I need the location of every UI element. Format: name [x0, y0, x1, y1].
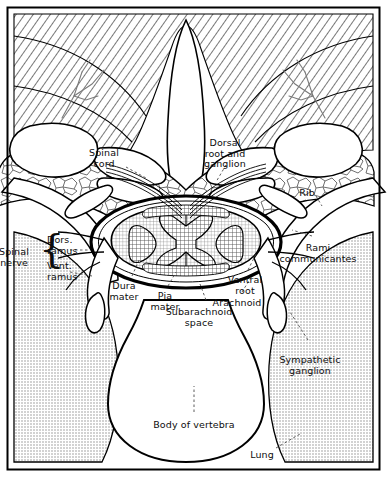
label-rami-communicantes: Rami communicantes — [258, 243, 378, 264]
label-sympathetic-ganglion: Sympathetic ganglion — [250, 355, 370, 376]
rib-right — [274, 123, 362, 177]
spinal-nerve-brace: { — [39, 228, 64, 268]
spinal-cord-core — [111, 205, 261, 276]
label-rib: Rib — [247, 188, 367, 199]
label-subarachnoid-space: Subarachnoid space — [139, 307, 259, 328]
label-spinal-cord: Spinal cord — [44, 148, 164, 169]
label-lung: Lung — [202, 450, 322, 461]
label-body-of-vertebra: Body of vertebra — [134, 420, 254, 431]
label-dorsal-root-ganglion: Dorsal root and ganglion — [165, 138, 285, 170]
label-ventral-root: Ventral root — [185, 275, 305, 296]
diagram-canvas: Spinal cordDorsal root and ganglionRibSp… — [0, 0, 387, 477]
